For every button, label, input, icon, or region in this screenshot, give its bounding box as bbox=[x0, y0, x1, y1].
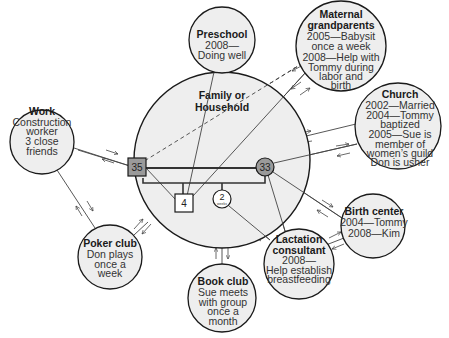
svg-text:2008—Kim: 2008—Kim bbox=[348, 227, 400, 239]
member-mother: 33 bbox=[256, 158, 274, 176]
system-maternal-grandparents: Maternal grandparents 2005—Babysit once … bbox=[296, 1, 386, 91]
system-book-club: Book club Sue meets with group once a mo… bbox=[188, 264, 256, 332]
svg-text:birth: birth bbox=[331, 79, 352, 91]
svg-text:Doing well: Doing well bbox=[198, 49, 246, 61]
system-work: Work Construction worker 3 close friends bbox=[10, 105, 74, 174]
system-lactation-consultant: Lactation consultant 2008— Help establis… bbox=[264, 229, 334, 299]
family-title-line1: Family or bbox=[199, 89, 246, 101]
line-work-poker bbox=[57, 170, 95, 228]
system-birth-center: Birth center 2004—Tommy 2008—Kim bbox=[340, 194, 408, 258]
son-age: 4 bbox=[181, 198, 187, 209]
member-daughter: 2 weeks bbox=[213, 190, 231, 208]
system-church: Church 2002—Married 2004—Tommy baptized … bbox=[355, 83, 441, 169]
system-preschool: Preschool 2008— Doing well bbox=[189, 7, 255, 73]
ecomap-diagram: Family or Household 35 33 bbox=[0, 0, 449, 338]
father-age: 35 bbox=[131, 162, 143, 173]
svg-text:Don is usher: Don is usher bbox=[371, 156, 430, 168]
svg-text:week: week bbox=[97, 267, 123, 279]
svg-text:month: month bbox=[208, 315, 237, 327]
line-lactation-birthcenter bbox=[326, 238, 344, 245]
line-poker-family bbox=[134, 222, 148, 235]
member-son: 4 bbox=[175, 194, 193, 212]
member-father: 35 bbox=[128, 158, 146, 176]
family-household-circle: Family or Household 35 33 bbox=[78, 63, 357, 248]
family-title-line2: Household bbox=[195, 101, 249, 113]
mother-age: 33 bbox=[259, 162, 271, 173]
svg-text:friends: friends bbox=[26, 145, 58, 157]
system-poker-club: Poker club Don plays once a week bbox=[78, 225, 142, 289]
daughter-age: 2 bbox=[219, 192, 224, 202]
svg-text:breastfeeding: breastfeeding bbox=[267, 273, 331, 285]
daughter-age-unit: weeks bbox=[217, 202, 227, 206]
